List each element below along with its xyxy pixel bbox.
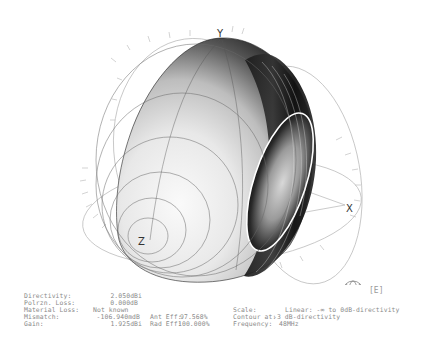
- results-panel: Directivity: 2.050dBi Polrzn. Loss: 0.00…: [0, 0, 441, 349]
- gain-label: Gain:: [24, 321, 44, 328]
- rad-eff-value: 100.000%: [178, 321, 210, 328]
- rad-eff-label: Rad Eff:: [150, 321, 182, 328]
- frequency-label: Frequency:: [233, 321, 272, 328]
- gain-value: 1.925dBi: [90, 321, 142, 328]
- frequency-value: 48MHz: [279, 321, 299, 328]
